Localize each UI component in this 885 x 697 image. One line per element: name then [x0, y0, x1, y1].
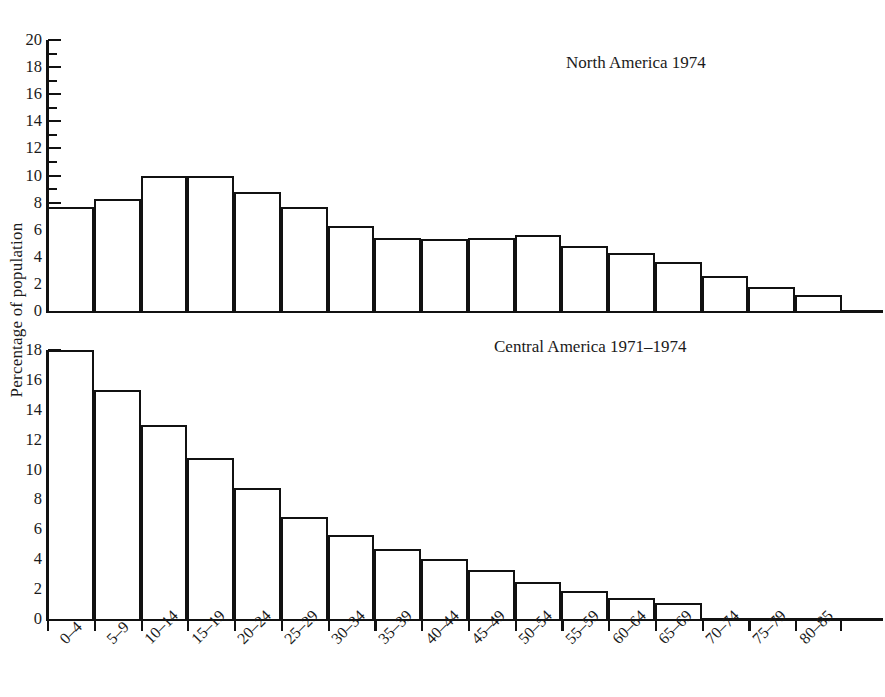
x-tick-mark: [187, 620, 189, 631]
bar-slot: [421, 348, 468, 619]
y-tick-label-12: 12: [2, 140, 42, 157]
bar-slot: [47, 38, 94, 311]
bar: [561, 246, 608, 311]
bar-slot: [94, 348, 141, 619]
bar: [141, 176, 188, 312]
bar: [47, 207, 94, 311]
bar: [281, 517, 328, 619]
bar: [374, 549, 421, 619]
bar: [748, 287, 795, 311]
bar-slot: [608, 38, 655, 311]
x-tick-mark: [748, 620, 750, 631]
y-tick-label-2: 2: [2, 581, 42, 598]
x-tick-mark: [374, 620, 376, 631]
x-tick-mark: [655, 620, 657, 631]
y-tick-label-18: 18: [2, 342, 42, 359]
x-label-slot: 50–54: [515, 633, 562, 693]
bar-slot: [94, 38, 141, 311]
bar: [328, 226, 375, 311]
x-tick-mark: [234, 620, 236, 631]
bar-slot: [187, 38, 234, 311]
y-tick-label-6: 6: [2, 222, 42, 239]
bar-slot: [608, 348, 655, 619]
x-label-slot: 70–74: [702, 633, 749, 693]
bar-slot: [748, 348, 795, 619]
x-label-slot: 35–39: [374, 633, 421, 693]
population-pyramid-figure: Percentage of population 024681012141618…: [0, 0, 885, 697]
x-tick-mark: [515, 620, 517, 631]
x-tick-mark: [141, 620, 143, 631]
bar-slot: [795, 348, 842, 619]
x-label-slot: 20–24: [234, 633, 281, 693]
bar-slot: [561, 348, 608, 619]
bar: [47, 350, 94, 619]
x-tick-mark: [702, 620, 704, 631]
bar: [608, 253, 655, 311]
bar: [702, 276, 749, 311]
bar-slot: [748, 38, 795, 311]
bar: [187, 458, 234, 619]
x-label-slot: 45–49: [468, 633, 515, 693]
x-label-slot: 65–69: [655, 633, 702, 693]
x-axis-tick-labels: 0–45–910–1415–1920–2425–2930–3435–3940–4…: [47, 633, 842, 693]
y-tick-label-0: 0: [2, 611, 42, 628]
x-label-slot: 15–19: [187, 633, 234, 693]
x-label-slot: 75–79: [748, 633, 795, 693]
bar-series-north-america: [47, 38, 842, 311]
bar: [374, 238, 421, 311]
y-tick-label-4: 4: [2, 249, 42, 266]
x-tick-mark: [468, 620, 470, 631]
y-tick-label-10: 10: [2, 168, 42, 185]
y-tick-label-16: 16: [2, 86, 42, 103]
x-label-slot: 40–44: [421, 633, 468, 693]
y-tick-label-8: 8: [2, 195, 42, 212]
y-tick-label-12: 12: [2, 432, 42, 449]
bar: [94, 390, 141, 619]
x-tick-mark: [281, 620, 283, 631]
x-tick-mark: [561, 620, 563, 631]
bar-slot: [702, 348, 749, 619]
x-label-slot: 55–59: [561, 633, 608, 693]
bar-slot: [47, 348, 94, 619]
bar-slot: [187, 348, 234, 619]
bar-slot: [655, 348, 702, 619]
bar: [141, 425, 188, 619]
x-label-slot: 80–85: [795, 633, 842, 693]
bar-slot: [702, 38, 749, 311]
y-tick-label-0: 0: [2, 303, 42, 320]
bar: [94, 199, 141, 311]
x-axis-tick-end: [840, 620, 842, 631]
bar-slot: [421, 38, 468, 311]
bar-slot: [141, 38, 188, 311]
x-tick-mark: [421, 620, 423, 631]
chart-title-central-america: Central America 1971–1974: [494, 337, 687, 357]
y-tick-label-6: 6: [2, 521, 42, 538]
x-label-slot: 5–9: [94, 633, 141, 693]
bar-slot: [141, 348, 188, 619]
x-tick-mark: [608, 620, 610, 631]
bar-slot: [468, 348, 515, 619]
x-label-slot: 25–29: [281, 633, 328, 693]
bar: [795, 295, 842, 311]
x-label-slot: 30–34: [328, 633, 375, 693]
y-tick-label-2: 2: [2, 276, 42, 293]
bar-slot: [281, 38, 328, 311]
bar: [234, 488, 281, 620]
bar-slot: [374, 38, 421, 311]
bar-slot: [561, 38, 608, 311]
bar-slot: [795, 38, 842, 311]
bar: [421, 239, 468, 311]
y-tick-label-14: 14: [2, 113, 42, 130]
x-tick-mark: [795, 620, 797, 631]
bar-slot: [234, 348, 281, 619]
bar-slot: [515, 348, 562, 619]
bar: [515, 235, 562, 311]
bar-slot: [234, 38, 281, 311]
bar-slot: [328, 348, 375, 619]
bar-slot: [655, 38, 702, 311]
bar: [234, 192, 281, 311]
x-tick-mark: [328, 620, 330, 631]
y-tick-label-16: 16: [2, 372, 42, 389]
y-tick-label-8: 8: [2, 491, 42, 508]
chart-title-north-america: North America 1974: [566, 53, 706, 73]
